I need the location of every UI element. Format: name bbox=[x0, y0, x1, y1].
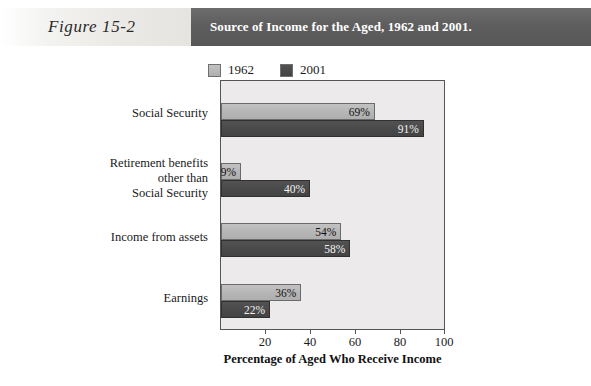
bar-group-container: 69% 91% 9% 40% 54% 58% 36% 22% bbox=[221, 81, 444, 329]
bar-social-security-2001: 91% bbox=[221, 120, 424, 137]
bar-value-retirement-benefits-2001: 40% bbox=[284, 183, 309, 195]
x-tick-label-60: 60 bbox=[349, 335, 362, 350]
bar-value-earnings-1962: 36% bbox=[275, 287, 300, 299]
bar-value-earnings-2001: 22% bbox=[244, 304, 269, 316]
bar-earnings-1962: 36% bbox=[221, 284, 301, 301]
legend-item-2001: 2001 bbox=[280, 62, 326, 78]
x-tick-label-40: 40 bbox=[304, 335, 317, 350]
figure-banner: Figure 15-2 Source of Income for the Age… bbox=[0, 8, 591, 46]
bar-value-retirement-benefits-1962: 9% bbox=[221, 166, 240, 178]
y-label-earnings: Earnings bbox=[164, 291, 208, 306]
x-axis-ticks: 20 40 60 80 100 bbox=[220, 330, 445, 352]
chart-plot-area: 69% 91% 9% 40% 54% 58% 36% 22% bbox=[220, 80, 445, 330]
bar-value-social-security-1962: 69% bbox=[349, 106, 374, 118]
bar-value-income-from-assets-1962: 54% bbox=[315, 226, 340, 238]
figure-title: Source of Income for the Aged, 1962 and … bbox=[191, 19, 472, 35]
bar-social-security-1962: 69% bbox=[221, 103, 375, 120]
bar-retirement-benefits-1962: 9% bbox=[221, 163, 241, 180]
x-tick-label-20: 20 bbox=[259, 335, 272, 350]
bar-income-from-assets-1962: 54% bbox=[221, 223, 341, 240]
legend-label-2001: 2001 bbox=[300, 62, 326, 78]
figure-number-label: Figure 15-2 bbox=[0, 17, 136, 37]
legend-swatch-1962 bbox=[208, 64, 221, 77]
x-tick-label-100: 100 bbox=[435, 335, 454, 350]
x-axis-title: Percentage of Aged Who Receive Income bbox=[220, 352, 445, 367]
y-axis-category-labels: Social Security Retirement benefits othe… bbox=[0, 80, 214, 330]
x-tick-label-80: 80 bbox=[394, 335, 407, 350]
figure-number-panel: Figure 15-2 bbox=[0, 8, 191, 46]
x-tick-mark-40 bbox=[310, 330, 311, 334]
figure-title-panel: Source of Income for the Aged, 1962 and … bbox=[191, 8, 591, 46]
bar-value-income-from-assets-2001: 58% bbox=[324, 243, 349, 255]
legend-label-1962: 1962 bbox=[228, 62, 254, 78]
x-tick-mark-100 bbox=[444, 330, 445, 334]
x-tick-mark-80 bbox=[400, 330, 401, 334]
x-tick-mark-60 bbox=[355, 330, 356, 334]
y-label-income-from-assets: Income from assets bbox=[111, 230, 208, 245]
y-label-retirement-benefits: Retirement benefits other than Social Se… bbox=[110, 156, 208, 201]
y-label-social-security: Social Security bbox=[132, 106, 208, 121]
bar-earnings-2001: 22% bbox=[221, 301, 270, 318]
chart-legend: 1962 2001 bbox=[208, 62, 326, 78]
legend-item-1962: 1962 bbox=[208, 62, 254, 78]
bar-income-from-assets-2001: 58% bbox=[221, 240, 350, 257]
bar-value-social-security-2001: 91% bbox=[398, 123, 423, 135]
legend-swatch-2001 bbox=[280, 64, 293, 77]
bar-retirement-benefits-2001: 40% bbox=[221, 180, 310, 197]
x-tick-mark-20 bbox=[265, 330, 266, 334]
